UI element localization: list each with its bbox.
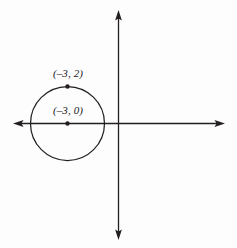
y-axis-group bbox=[115, 10, 122, 240]
point-label-top: (–3, 2) bbox=[53, 68, 83, 79]
point-label-center: (–3, 0) bbox=[53, 105, 83, 116]
point-marker-center bbox=[65, 121, 69, 125]
circle-coordinate-plane-figure: (–3, 2) (–3, 0) bbox=[0, 0, 237, 248]
coordinate-plane-graphic bbox=[0, 0, 237, 248]
point-marker-top bbox=[65, 84, 69, 88]
